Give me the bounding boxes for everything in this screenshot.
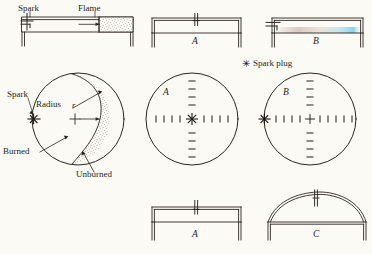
- label-chamber-C-bottom: C: [313, 230, 319, 240]
- spark-plug-icon: [193, 14, 199, 26]
- label-unburned: Unburned: [76, 170, 112, 179]
- label-flame-top: Flame: [78, 4, 101, 13]
- label-burned: Burned: [3, 147, 30, 156]
- label-chamber-A-top: A: [192, 37, 198, 47]
- panel-chamber-B-plan: [259, 73, 356, 165]
- spark-plug-legend-icon: ✳: [242, 59, 250, 69]
- panel-flame-front-circle: [28, 73, 124, 172]
- label-spark-circle: Spark: [7, 90, 28, 99]
- label-radius-symbol: r: [72, 101, 75, 110]
- label-radius: Radius: [36, 100, 61, 109]
- label-circle-B: B: [283, 88, 289, 98]
- panel-chamber-A-plan: [146, 73, 238, 165]
- panel-flame-propagation-chamber: [21, 12, 133, 47]
- spark-plug-icon: [187, 114, 198, 125]
- spark-plug-icon: [259, 114, 270, 124]
- label-chamber-A-bottom: A: [192, 230, 198, 240]
- spark-plug-legend-label: Spark plug: [253, 59, 292, 68]
- label-circle-A: A: [163, 88, 169, 98]
- label-chamber-B-top: B: [313, 37, 319, 47]
- label-spark-top: Spark: [18, 4, 39, 13]
